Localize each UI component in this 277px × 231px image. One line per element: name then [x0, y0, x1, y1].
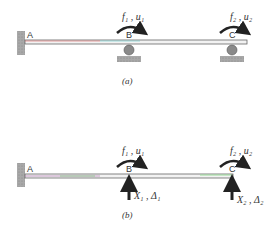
- figure-a: A B C f₁ , u₁ f₂ , u₂ (a): [17, 11, 253, 86]
- node-label-b: B: [126, 164, 132, 174]
- load-label-b: f₁ , u₁: [122, 145, 144, 156]
- node-label-c: C: [229, 164, 236, 174]
- caption-b: (b): [122, 210, 133, 220]
- node-label-a: A: [27, 164, 33, 174]
- ground-b: [117, 56, 141, 62]
- load-label-c: f₂ , u₂: [230, 145, 253, 156]
- fixed-support-a: [17, 31, 25, 55]
- beam-a: [25, 40, 247, 44]
- fixed-support-b: [17, 163, 25, 187]
- ground-c: [220, 56, 244, 62]
- roller-support-b: [124, 45, 134, 55]
- redundant-label-c: X₂ , Δ₂: [236, 194, 264, 205]
- node-label-a: A: [27, 30, 33, 40]
- load-label-b: f₁ , u₁: [122, 11, 144, 22]
- beam-diagram: A B C f₁ , u₁ f₂ , u₂ (a) A B C f₁ , u₁ …: [0, 0, 277, 231]
- node-label-c: C: [229, 30, 236, 40]
- roller-support-c: [227, 45, 237, 55]
- node-label-b: B: [126, 30, 132, 40]
- load-label-c: f₂ , u₂: [230, 11, 253, 22]
- redundant-label-b: X₁ , Δ₁: [133, 190, 160, 201]
- caption-a: (a): [122, 76, 133, 86]
- figure-b: A B C f₁ , u₁ f₂ , u₂ X₁ , Δ₁ X₂ , Δ₂ (b…: [17, 145, 264, 220]
